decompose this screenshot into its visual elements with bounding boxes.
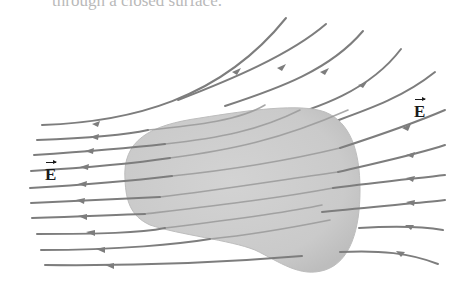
field-label-right: E [414,102,425,122]
field-line [340,110,445,148]
field-line [37,228,165,234]
field-line [41,239,210,250]
field-line [42,18,286,125]
field-line [45,256,302,265]
field-line [37,130,148,140]
field-line [340,251,438,264]
field-label-left: E [45,165,56,185]
vector-e-right: E [414,102,425,122]
field-diagram [0,0,466,302]
vector-e-left: E [45,165,56,185]
field-line [32,214,145,218]
field-line [359,227,443,230]
